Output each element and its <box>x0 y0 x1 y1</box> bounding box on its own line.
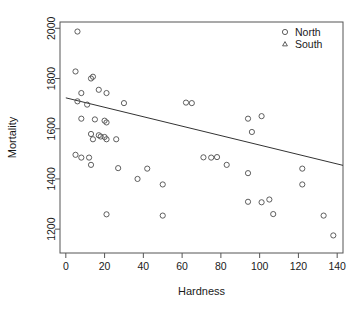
data-point-north <box>249 129 254 134</box>
data-point-north <box>79 90 84 95</box>
data-point-north <box>214 154 219 159</box>
data-point-north <box>160 182 165 187</box>
data-point-north <box>88 162 93 167</box>
legend-label-north: North <box>295 26 321 38</box>
data-point-north <box>145 166 150 171</box>
y-tick-label-1200: 1200 <box>45 217 57 241</box>
data-point-north <box>245 171 250 176</box>
data-point-north <box>79 155 84 160</box>
data-point-north <box>73 152 78 157</box>
x-axis-title: Hardness <box>178 285 226 297</box>
scatter-plot: 02040608010012014012001400160018002000Ha… <box>0 0 360 320</box>
x-tick-label-40: 40 <box>138 260 150 272</box>
data-point-north <box>79 116 84 121</box>
data-point-north <box>201 155 206 160</box>
data-point-north <box>209 155 214 160</box>
data-point-north <box>90 137 95 142</box>
x-tick-label-0: 0 <box>63 260 69 272</box>
y-axis-title: Mortality <box>6 116 18 158</box>
data-point-north <box>96 87 101 92</box>
data-point-north <box>116 166 121 171</box>
y-tick-label-2000: 2000 <box>45 16 57 40</box>
y-tick-label-1600: 1600 <box>45 117 57 141</box>
data-point-north <box>183 100 188 105</box>
data-point-north <box>73 69 78 74</box>
data-point-north <box>75 29 80 34</box>
y-tick-label-1800: 1800 <box>45 67 57 91</box>
data-point-north <box>271 211 276 216</box>
data-point-north <box>321 213 326 218</box>
data-point-north <box>160 213 165 218</box>
data-point-north <box>331 233 336 238</box>
data-point-north <box>92 117 97 122</box>
data-point-north <box>245 116 250 121</box>
data-point-north <box>88 131 93 136</box>
data-point-north <box>300 166 305 171</box>
data-point-north <box>259 114 264 119</box>
chart-container: 02040608010012014012001400160018002000Ha… <box>0 0 360 320</box>
x-tick-label-140: 140 <box>328 260 346 272</box>
x-tick-label-20: 20 <box>99 260 111 272</box>
data-point-north <box>189 101 194 106</box>
x-tick-label-100: 100 <box>251 260 269 272</box>
x-tick-label-120: 120 <box>290 260 308 272</box>
data-point-north <box>104 90 109 95</box>
x-tick-label-60: 60 <box>176 260 188 272</box>
data-point-north <box>245 199 250 204</box>
x-tick-label-80: 80 <box>215 260 227 272</box>
data-point-north <box>267 197 272 202</box>
data-point-north <box>114 137 119 142</box>
data-point-north <box>121 101 126 106</box>
data-point-north <box>224 162 229 167</box>
data-point-north <box>104 212 109 217</box>
legend-label-south: South <box>295 38 323 50</box>
legend-marker-south <box>283 42 288 46</box>
data-point-north <box>135 176 140 181</box>
data-point-north <box>86 155 91 160</box>
y-tick-label-1400: 1400 <box>45 167 57 191</box>
data-point-north <box>300 182 305 187</box>
data-point-north <box>259 200 264 205</box>
legend-marker-north <box>282 29 287 34</box>
